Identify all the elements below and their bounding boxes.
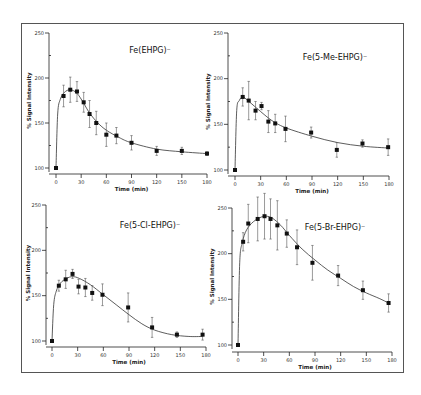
x-axis-title: Time (min) — [112, 359, 146, 365]
data-point-marker — [241, 240, 245, 244]
y-tick-label: 100 — [217, 342, 227, 348]
data-point-marker — [201, 333, 205, 337]
data-point-marker — [247, 99, 251, 103]
data-point-marker — [309, 131, 313, 135]
x-tick-label: 90 — [309, 181, 315, 187]
data-point-marker — [155, 149, 159, 153]
data-point-marker — [57, 284, 61, 288]
data-point-marker — [269, 217, 273, 221]
y-axis-title: % Signal Intensity — [205, 73, 212, 130]
data-point-marker — [77, 285, 81, 289]
data-point-marker — [283, 127, 287, 131]
data-point-marker — [236, 343, 240, 347]
x-tick-label: 150 — [177, 179, 187, 185]
x-tick-label: 60 — [286, 357, 292, 363]
data-point-marker — [68, 88, 72, 92]
x-tick-label: 150 — [362, 357, 372, 363]
x-tick-label: 90 — [126, 352, 132, 358]
x-tick-label: 120 — [333, 181, 343, 187]
x-tick-label: 60 — [103, 179, 109, 185]
chart-panel-fe-5-me-ehpg: 1001502002500306090120150180Time (min)% … — [205, 30, 394, 194]
figure-canvas: 1001502002500306090120150180Time (min)% … — [0, 0, 421, 395]
fit-curve — [56, 90, 207, 168]
data-point-marker — [254, 109, 258, 113]
data-point-marker — [246, 222, 250, 226]
data-point-marker — [241, 95, 245, 99]
y-tick-label: 200 — [217, 250, 227, 256]
chart-panel-fe-ehpg: 1001502002500306090120150180Time (min)% … — [26, 30, 212, 192]
data-point-marker — [62, 94, 66, 98]
x-tick-label: 180 — [387, 357, 397, 363]
x-tick-label: 30 — [257, 181, 263, 187]
fit-curve — [238, 216, 389, 345]
y-tick-label: 250 — [213, 30, 223, 36]
y-tick-label: 250 — [34, 30, 44, 36]
panel-title: Fe(5-Me-EHPG)⁻ — [303, 53, 367, 62]
x-tick-label: 30 — [74, 352, 80, 358]
x-tick-label: 0 — [236, 357, 239, 363]
x-tick-label: 120 — [150, 352, 160, 358]
y-tick-label: 150 — [217, 296, 227, 302]
x-axis-title: Time (min) — [295, 188, 329, 194]
data-point-marker — [335, 148, 339, 152]
data-point-marker — [175, 333, 179, 337]
data-point-marker — [100, 293, 104, 297]
data-point-marker — [273, 121, 277, 125]
x-tick-label: 30 — [260, 357, 266, 363]
x-axis-title: Time (min) — [298, 364, 332, 370]
y-tick-label: 200 — [213, 75, 223, 81]
y-axis-title: % Signal Intensity — [26, 72, 33, 129]
y-tick-label: 100 — [34, 165, 44, 171]
data-point-marker — [50, 339, 54, 343]
y-tick-label: 250 — [217, 205, 227, 211]
data-point-marker — [263, 214, 267, 218]
data-point-marker — [361, 288, 365, 292]
y-tick-label: 150 — [34, 120, 44, 126]
data-point-marker — [260, 104, 264, 108]
data-point-marker — [83, 286, 87, 290]
data-point-marker — [75, 90, 79, 94]
chart-panel-fe-5-cl-ehpg: 1001502002500306090120150180Time (min)% … — [25, 202, 211, 365]
data-point-marker — [360, 142, 364, 146]
y-tick-label: 150 — [31, 292, 41, 298]
x-tick-label: 180 — [201, 352, 211, 358]
x-tick-label: 150 — [176, 352, 186, 358]
data-point-marker — [82, 100, 86, 104]
y-axis-title: % Signal Intensity — [25, 244, 32, 301]
data-point-marker — [336, 274, 340, 278]
panel-title: Fe(EHPG)⁻ — [129, 46, 171, 55]
x-tick-label: 120 — [336, 357, 346, 363]
x-tick-label: 90 — [128, 179, 134, 185]
data-point-marker — [94, 121, 98, 125]
x-tick-label: 60 — [283, 181, 289, 187]
data-point-marker — [150, 325, 154, 329]
data-point-marker — [295, 245, 299, 249]
data-point-marker — [266, 120, 270, 124]
panel-title: Fe(5-Cl-EHPG)⁻ — [120, 221, 180, 230]
y-tick-label: 100 — [31, 338, 41, 344]
data-point-marker — [88, 112, 92, 116]
data-point-marker — [233, 168, 237, 172]
data-point-marker — [275, 223, 279, 227]
y-axis-title: % Signal Intensity — [209, 248, 216, 305]
chart-panel-fe-5-br-ehpg: 1001502002500306090120150180Time (min)% … — [209, 193, 397, 370]
x-tick-label: 0 — [50, 352, 53, 358]
panel-title: Fe(5-Br-EHPG)⁻ — [305, 223, 366, 232]
data-point-marker — [130, 141, 134, 145]
data-point-marker — [180, 149, 184, 153]
data-point-marker — [126, 305, 130, 309]
x-tick-label: 180 — [202, 179, 212, 185]
data-point-marker — [90, 291, 94, 295]
data-point-marker — [71, 272, 75, 276]
data-point-marker — [387, 301, 391, 305]
x-tick-label: 90 — [312, 357, 318, 363]
x-tick-label: 0 — [233, 181, 236, 187]
x-tick-label: 0 — [54, 179, 57, 185]
y-tick-label: 200 — [31, 247, 41, 253]
data-point-marker — [285, 232, 289, 236]
data-point-marker — [54, 166, 58, 170]
x-tick-label: 120 — [152, 179, 162, 185]
y-tick-label: 250 — [31, 202, 41, 208]
x-axis-title: Time (min) — [115, 186, 149, 192]
data-point-marker — [64, 277, 68, 281]
